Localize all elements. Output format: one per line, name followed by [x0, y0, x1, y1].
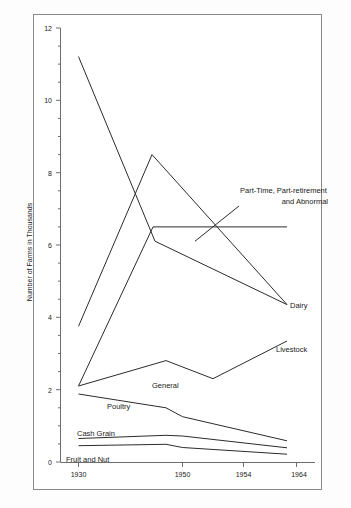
y-tick-label-4: 4 [48, 314, 52, 321]
series-line-fruit-and-nut [79, 444, 288, 454]
x-tick-label-1930: 1930 [71, 471, 87, 478]
line-chart: 0 2 4 6 8 10 12 1930 1950 1954 1964 Numb… [0, 0, 351, 508]
y-tick-label-0: 0 [48, 459, 52, 466]
series-label-part-time-line2: and Abnormal [282, 197, 329, 206]
series-label-general: General [152, 381, 179, 390]
y-tick-label-10: 10 [44, 97, 52, 104]
y-axis-title: Number of Farms in Thousands [26, 202, 33, 301]
x-tick-label-1954: 1954 [236, 471, 252, 478]
series-label-livestock: Livestock [276, 345, 308, 354]
series-label-fruit-and-nut: Fruit and Nut [66, 455, 110, 464]
series-line-general [79, 227, 288, 386]
series-line-livestock [79, 341, 288, 386]
y-tick-label-6: 6 [48, 242, 52, 249]
y-tick-label-8: 8 [48, 170, 52, 177]
y-tick-label-12: 12 [44, 25, 52, 32]
series-label-part-time-line1: Part-Time, Part-retirement [240, 186, 328, 195]
y-major-ticks [56, 28, 61, 462]
series-label-poultry: Poultry [107, 402, 131, 411]
series-label-dairy: Dairy [290, 301, 308, 310]
series-label-cash-grain: Cash Grain [77, 429, 115, 438]
y-tick-label-2: 2 [48, 387, 52, 394]
chart-figure: 0 2 4 6 8 10 12 1930 1950 1954 1964 Numb… [0, 0, 351, 508]
x-tick-label-1950: 1950 [175, 471, 191, 478]
series-line-dairy [79, 57, 288, 305]
leader-part-time [195, 206, 239, 241]
x-tick-label-1964: 1964 [291, 471, 307, 478]
series-line-part-time [79, 155, 288, 327]
x-ticks [79, 463, 297, 468]
